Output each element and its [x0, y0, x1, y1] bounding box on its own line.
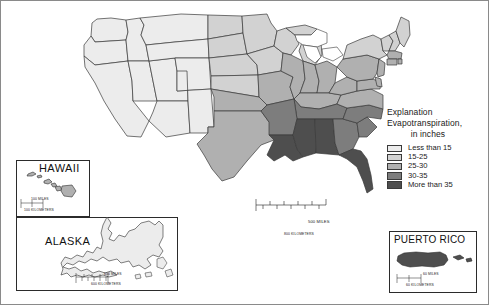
puerto-rico-scalebar-miles-label: 60 MILES: [423, 272, 439, 276]
puerto-rico-scalebar-km-label: 60 KILOMETERS: [406, 283, 434, 287]
legend-row: More than 35: [387, 181, 487, 190]
hawaii-scalebar-km-label: 100 KILOMETERS: [24, 208, 54, 212]
legend: Explanation Evapotranspiration, in inche…: [387, 107, 487, 190]
legend-row: 25-30: [387, 162, 487, 171]
conus-map: [71, 9, 411, 214]
legend-row: Less than 15: [387, 144, 487, 153]
state-washington: [91, 18, 128, 42]
main-scalebar-km-label: 800 KILOMETERS: [284, 232, 314, 236]
puerto-rico-inset-title: PUERTO RICO: [394, 234, 465, 245]
state-florida: [339, 149, 373, 193]
state-arizona: [149, 101, 190, 137]
legend-label: 30-35: [408, 172, 427, 181]
main-scalebar: [256, 199, 326, 211]
alaska-scalebar-miles-label: 600 MILES: [104, 272, 122, 276]
legend-swatch-icon: [387, 181, 402, 189]
legend-heading: Explanation: [387, 107, 487, 118]
legend-subheading: Evapotranspiration,: [387, 118, 487, 129]
legend-swatch-icon: [387, 154, 402, 162]
map-figure: 500 MILES 800 KILOMETERS HAWAII 100 MILE…: [0, 0, 489, 305]
state-rhode-island: [398, 59, 402, 64]
hawaii-islands: [18, 164, 88, 200]
state-massachusetts: [387, 51, 402, 59]
state-connecticut: [387, 59, 397, 65]
main-scalebar-miles-label: 500 MILES: [308, 219, 330, 224]
legend-row: 15-25: [387, 153, 487, 162]
state-new-york: [343, 35, 387, 59]
legend-units: in inches: [387, 129, 487, 140]
legend-rows: Less than 15 15-25 25-30 30-35 More than…: [387, 144, 487, 189]
hawaii-scalebar-miles-label: 100 MILES: [31, 197, 49, 201]
legend-swatch-icon: [387, 163, 402, 171]
legend-label: More than 35: [408, 181, 453, 190]
legend-row: 30-35: [387, 172, 487, 181]
legend-swatch-icon: [387, 172, 402, 180]
legend-swatch-icon: [387, 145, 402, 153]
alaska-scalebar-km-label: 600 KILOMETERS: [91, 282, 121, 286]
legend-label: 25-30: [408, 162, 427, 171]
